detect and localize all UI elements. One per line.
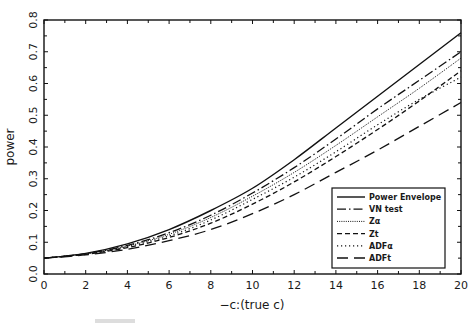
y-tick-label: 0.3 [27, 170, 40, 188]
x-tick-label: 0 [41, 279, 48, 292]
x-tick-label: 6 [166, 279, 173, 292]
x-tick-label: 20 [454, 279, 468, 292]
x-tick-label: 10 [246, 279, 260, 292]
x-tick-label: 2 [82, 279, 89, 292]
legend-item-label: Zt [369, 230, 379, 239]
x-tick-label: 14 [329, 279, 343, 292]
x-axis-label: −c:(true c) [219, 298, 284, 312]
legend: Power EnvelopeVN testZαZtADFαADFt [332, 188, 445, 268]
y-tick-label: 0.0 [27, 265, 40, 283]
x-tick-label: 16 [371, 279, 385, 292]
legend-item-label: Power Envelope [369, 193, 442, 202]
legend-item-label: VN test [369, 205, 403, 214]
truncated-caption [95, 319, 135, 323]
legend-item-label: ADFt [369, 254, 391, 263]
y-tick-label: 0.8 [27, 11, 40, 29]
y-tick-label: 0.4 [27, 138, 40, 156]
legend-item-label: ADFα [369, 242, 393, 251]
x-tick-label: 8 [207, 279, 214, 292]
x-tick-label: 12 [287, 279, 301, 292]
y-tick-label: 0.6 [27, 75, 40, 93]
y-tick-label: 0.1 [27, 234, 40, 252]
y-tick-label: 0.5 [27, 107, 40, 125]
x-tick-label: 18 [412, 279, 426, 292]
y-axis-label: power [3, 128, 17, 165]
legend-item-label: Zα [369, 217, 381, 226]
x-tick-label: 4 [124, 279, 131, 292]
power-chart: 02468101214161820 0.00.10.20.30.40.50.60… [0, 0, 476, 323]
y-tick-label: 0.2 [27, 202, 40, 220]
y-tick-label: 0.7 [27, 43, 40, 61]
